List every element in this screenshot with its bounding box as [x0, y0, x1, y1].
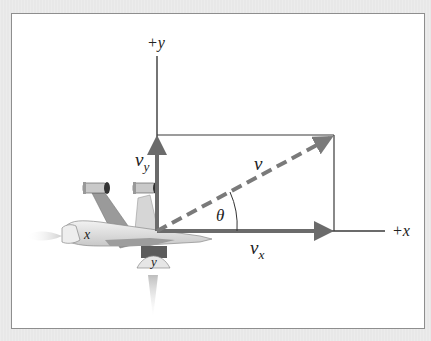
bottom-thruster-label: y [151, 255, 157, 268]
vy-label: vy [135, 150, 149, 173]
v-label: v [254, 154, 262, 173]
top-thruster-left-icon [83, 182, 110, 194]
vx-label: vx [250, 238, 264, 261]
v-resultant-arrow [157, 138, 330, 231]
y-axis-label: +y [147, 35, 165, 51]
rear-thruster-label: x [84, 228, 90, 242]
theta-arc [230, 192, 237, 231]
vector-diagram [0, 0, 431, 341]
x-axis-label: +x [392, 223, 410, 239]
jet-plane-icon [62, 182, 212, 268]
rear-flame-icon [26, 231, 62, 240]
bottom-flame-icon [148, 275, 158, 318]
theta-label: θ [216, 207, 224, 224]
